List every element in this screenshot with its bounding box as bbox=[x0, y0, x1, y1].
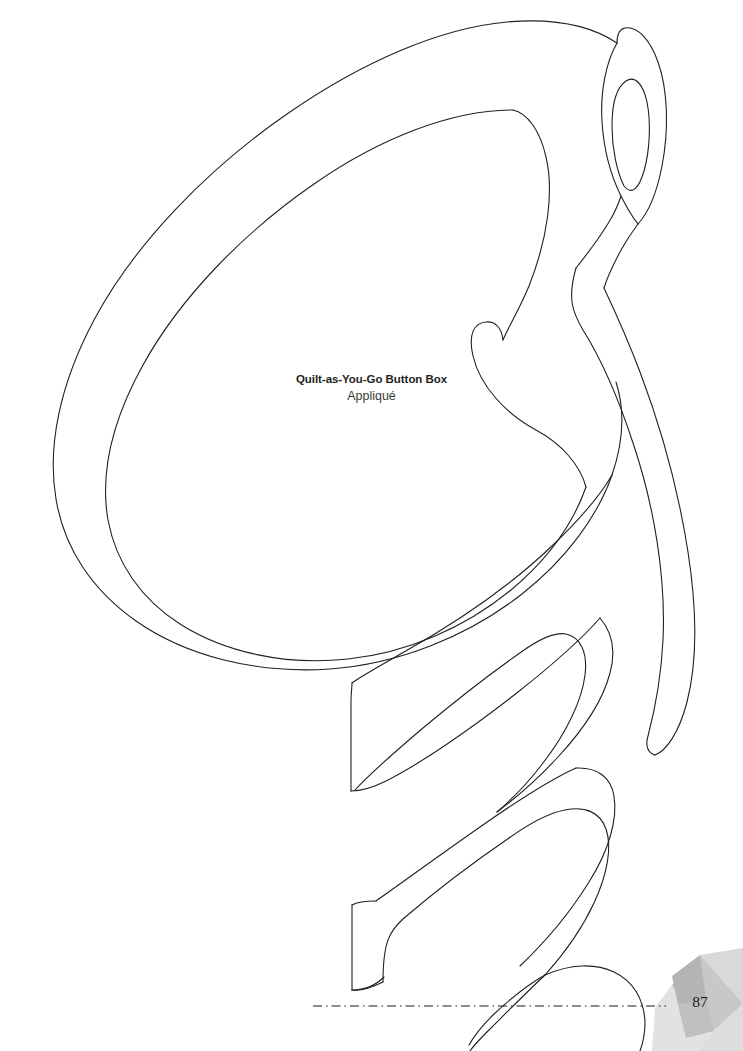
lower-tail-point-a bbox=[470, 975, 545, 1051]
crossing-stem-left bbox=[576, 196, 621, 268]
top-loop-outer-right bbox=[617, 28, 667, 224]
pattern-outline-paths bbox=[53, 21, 694, 1051]
serpentine-lower-cut-top bbox=[352, 901, 376, 905]
serpentine-upper-hook bbox=[497, 618, 613, 812]
serpentine-lower-lower-edge bbox=[383, 838, 509, 982]
appliqué-pattern-artwork bbox=[0, 0, 743, 1051]
page-number: 87 bbox=[686, 994, 714, 1010]
crossing-stem-right bbox=[604, 224, 638, 288]
tail-apex bbox=[604, 288, 695, 755]
inner-oval-outline bbox=[106, 110, 586, 661]
inner-spiral-tip bbox=[471, 322, 586, 487]
outer-oval-outline bbox=[53, 21, 621, 670]
serpentine-upper-cut-end bbox=[351, 683, 352, 791]
bottom-arc bbox=[545, 966, 645, 1051]
serpentine-lower-hook-inner bbox=[509, 809, 609, 975]
serpentine-upper-outer bbox=[352, 475, 612, 683]
serpentine-lower-hook-outer bbox=[520, 768, 615, 966]
serpentine-upper-inner bbox=[351, 618, 600, 791]
pattern-page: Quilt-as-You-Go Button Box Appliqué 87 bbox=[0, 0, 743, 1051]
top-loop-inner-eye bbox=[612, 79, 649, 190]
serpentine-lower-upper-edge bbox=[376, 768, 576, 901]
serpentine-lower-outer bbox=[355, 648, 527, 790]
top-loop-outer bbox=[602, 43, 638, 224]
spiral-inner-return bbox=[503, 110, 549, 340]
serpentine-lower-cut-bottom bbox=[352, 982, 383, 990]
